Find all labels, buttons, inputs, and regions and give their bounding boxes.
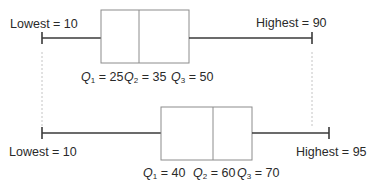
bottom-q1-label: Q1 = 40 — [143, 167, 185, 181]
top-lowest-label: Lowest = 10 — [10, 18, 78, 31]
q1-symbol: Q1 — [81, 70, 95, 84]
q3-symbol: Q3 — [171, 70, 185, 84]
top-q2-label: Q2 = 35 — [124, 71, 166, 85]
top-q3-label: Q3 = 50 — [171, 71, 213, 85]
top-q1-label: Q1 = 25 — [81, 71, 123, 85]
bottom-boxplot — [42, 107, 329, 160]
q3-symbol: Q3 — [237, 166, 251, 180]
bottom-highest-label: Highest = 95 — [296, 146, 367, 159]
bottom-q3-label: Q3 = 70 — [237, 167, 279, 181]
bottom-q2-label: Q2 = 60 — [193, 167, 235, 181]
bottom-lowest-label: Lowest = 10 — [9, 146, 77, 159]
top-highest-label: Highest = 90 — [256, 17, 327, 30]
top-box — [101, 10, 189, 63]
bottom-box — [161, 107, 252, 160]
q2-symbol: Q2 — [193, 166, 207, 180]
q2-symbol: Q2 — [124, 70, 138, 84]
q1-symbol: Q1 — [143, 166, 157, 180]
